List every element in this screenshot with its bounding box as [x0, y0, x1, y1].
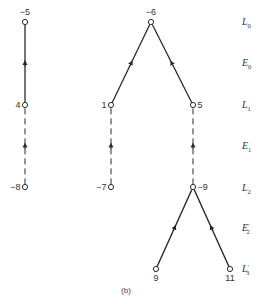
level-label: L1 — [241, 99, 251, 112]
level-labels: L0E0L1E1L2E′2L′3 — [241, 16, 251, 276]
level-label: L0 — [241, 16, 251, 29]
node-circle — [22, 184, 27, 189]
node-label: −7 — [96, 182, 106, 192]
node-label: −5 — [20, 7, 30, 17]
node-label: 11 — [225, 273, 234, 283]
level-label: L2 — [241, 182, 251, 195]
tree-diagram: −54−81−7−65−9911 L0E0L1E1L2E′2L′3 (b) — [0, 0, 265, 304]
node-label: 4 — [15, 100, 20, 110]
node-circle — [22, 102, 27, 107]
node-circle — [227, 266, 232, 271]
node-label: 5 — [198, 100, 203, 110]
node-circle — [108, 102, 113, 107]
level-label: E0 — [241, 57, 251, 70]
node-circle — [153, 266, 158, 271]
level-label: L′3 — [241, 263, 250, 276]
node-circle — [190, 184, 195, 189]
node-circle — [190, 102, 195, 107]
node-label: 9 — [153, 273, 158, 283]
node-label: −8 — [10, 182, 20, 192]
node-circle — [108, 184, 113, 189]
nodes-group: −54−81−7−65−9911 — [10, 7, 234, 283]
level-label: E′2 — [241, 222, 250, 235]
node-circle — [22, 19, 27, 24]
node-label: −6 — [146, 7, 156, 17]
node-circle — [148, 19, 153, 24]
edges-group — [25, 24, 229, 266]
figure-caption: (b) — [121, 286, 131, 295]
node-label: 1 — [101, 100, 106, 110]
node-label: −9 — [198, 182, 208, 192]
level-label: E1 — [241, 140, 251, 153]
